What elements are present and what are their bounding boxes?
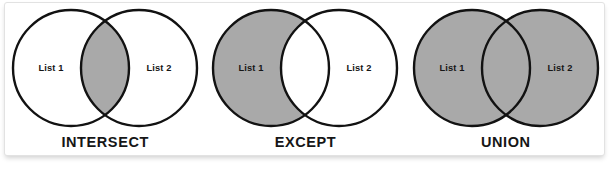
- label-list1-intersect: List 1: [38, 63, 63, 73]
- caption-intersect: INTERSECT: [5, 135, 205, 150]
- venn-panel-union: List 1 List 2 UNION: [406, 3, 606, 157]
- venn-diagram-except: List 1 List 2: [205, 3, 405, 137]
- venn-panel-row: List 1 List 2 INTERSECT: [5, 3, 606, 157]
- venn-diagram-intersect: List 1 List 2: [5, 3, 205, 137]
- figure-card: List 1 List 2 INTERSECT: [4, 2, 605, 156]
- venn-panel-intersect: List 1 List 2 INTERSECT: [5, 3, 205, 157]
- venn-figure-root: List 1 List 2 INTERSECT: [0, 0, 615, 169]
- venn-panel-except: List 1 List 2 EXCEPT: [205, 3, 405, 157]
- label-list1-union: List 1: [439, 63, 464, 73]
- label-list2-intersect: List 2: [146, 63, 171, 73]
- label-list2-union: List 2: [547, 63, 572, 73]
- caption-except: EXCEPT: [205, 135, 405, 150]
- label-list2-except: List 2: [347, 63, 372, 73]
- label-list1-except: List 1: [239, 63, 264, 73]
- caption-union: UNION: [406, 135, 606, 150]
- venn-diagram-union: List 1 List 2: [406, 3, 606, 137]
